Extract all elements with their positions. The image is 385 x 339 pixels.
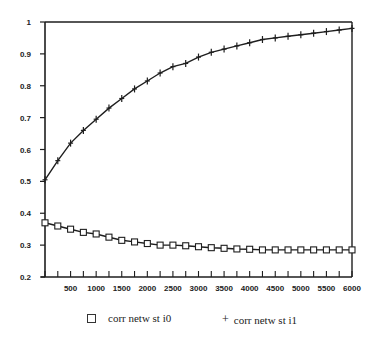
square-marker [93, 231, 99, 237]
x-tick-label: 4000 [241, 284, 259, 293]
x-tick-label: 1500 [113, 284, 131, 293]
square-marker [234, 246, 240, 252]
x-tick-label: 5500 [318, 284, 336, 293]
square-marker [259, 247, 265, 253]
y-tick-label: 0.6 [20, 146, 32, 155]
y-tick-label: 0.2 [20, 273, 32, 282]
square-marker [119, 237, 125, 243]
square-marker [170, 242, 176, 248]
x-tick-label: 3000 [190, 284, 208, 293]
square-marker [68, 226, 74, 232]
square-marker [285, 247, 291, 253]
legend-label-i1: corr netw st i1 [234, 314, 297, 326]
square-marker [323, 247, 329, 253]
square-marker [55, 223, 61, 229]
y-tick-label: 1 [27, 18, 32, 27]
x-tick-label: 2500 [164, 284, 182, 293]
square-marker [144, 241, 150, 247]
square-marker [157, 242, 163, 248]
square-marker [80, 229, 86, 235]
square-marker [42, 220, 48, 226]
plus-marker-icon: + [222, 312, 229, 327]
square-marker [106, 234, 112, 240]
square-marker [183, 243, 189, 249]
square-marker [336, 247, 342, 253]
legend-item-i1: + corr netw st i1 [222, 312, 297, 327]
series-line-1 [45, 28, 352, 179]
x-tick-label: 4500 [266, 284, 284, 293]
x-tick-label: 3500 [215, 284, 233, 293]
legend-label-i0: corr netw st i0 [108, 312, 171, 324]
square-marker [221, 245, 227, 251]
square-marker [208, 245, 214, 251]
y-tick-label: 0.9 [20, 50, 32, 59]
square-marker [132, 239, 138, 245]
square-marker [247, 246, 253, 252]
legend-item-i0: corr netw st i0 [87, 312, 171, 324]
y-tick-label: 0.4 [20, 209, 32, 218]
y-tick-label: 0.8 [20, 82, 32, 91]
square-marker-icon [87, 314, 96, 323]
square-marker [349, 247, 355, 253]
square-marker [272, 247, 278, 253]
x-tick-label: 6000 [343, 284, 361, 293]
line-chart: 0.20.30.40.50.60.70.80.91500100015002000… [0, 0, 385, 310]
square-marker [311, 247, 317, 253]
y-tick-label: 0.7 [20, 114, 32, 123]
y-tick-label: 0.5 [20, 177, 32, 186]
x-tick-label: 500 [64, 284, 78, 293]
x-tick-label: 5000 [292, 284, 310, 293]
square-marker [196, 244, 202, 250]
x-tick-label: 1000 [87, 284, 105, 293]
chart-series [42, 25, 355, 253]
y-tick-label: 0.3 [20, 241, 32, 250]
square-marker [298, 247, 304, 253]
x-tick-label: 2000 [138, 284, 156, 293]
